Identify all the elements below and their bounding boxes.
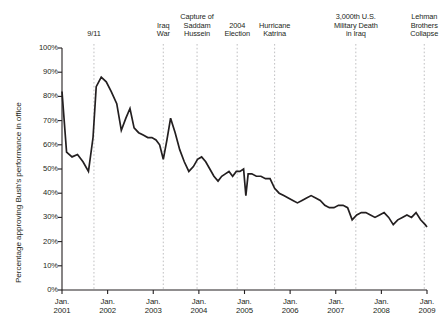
y-tick-label: 80% [14, 92, 58, 100]
event-marker-lines [94, 44, 424, 290]
x-tick-label: Jan. 2005 [219, 297, 271, 316]
approval-rating-chart: Percentage approving Bush's performance … [0, 0, 439, 334]
approval-data-line [62, 77, 427, 227]
y-tick-label: 50% [14, 165, 58, 173]
x-tick-label: Jan. 2004 [173, 297, 225, 316]
x-tick-label: Jan. 2002 [82, 297, 134, 316]
y-tick-label: 10% [14, 262, 58, 270]
x-tick-label: Jan. 2003 [127, 297, 179, 316]
x-tick-label: Jan. 2006 [264, 297, 316, 316]
y-axis-ticks [58, 48, 62, 290]
event-annotation-label: Hurricane Katrina [243, 22, 307, 39]
y-tick-label: 90% [14, 68, 58, 76]
x-tick-label: Jan. 2001 [36, 297, 88, 316]
event-annotation-label: 3,000th U.S. Military Death in Iraq [324, 13, 388, 39]
y-tick-label: 70% [14, 117, 58, 125]
y-tick-label: 30% [14, 213, 58, 221]
x-axis-ticks [62, 290, 427, 294]
y-tick-label: 40% [14, 189, 58, 197]
x-tick-label: Jan. 2007 [310, 297, 362, 316]
x-tick-label: Jan. 2009 [401, 297, 439, 316]
event-annotation-label: 9/11 [62, 30, 126, 39]
y-tick-label: 60% [14, 141, 58, 149]
event-annotation-label: Lehman Brothers Collapse [392, 13, 439, 39]
y-tick-label: 20% [14, 238, 58, 246]
y-tick-label: 0% [14, 286, 58, 294]
y-tick-label: 100% [14, 44, 58, 52]
x-tick-label: Jan. 2008 [355, 297, 407, 316]
plot-area [0, 0, 439, 334]
